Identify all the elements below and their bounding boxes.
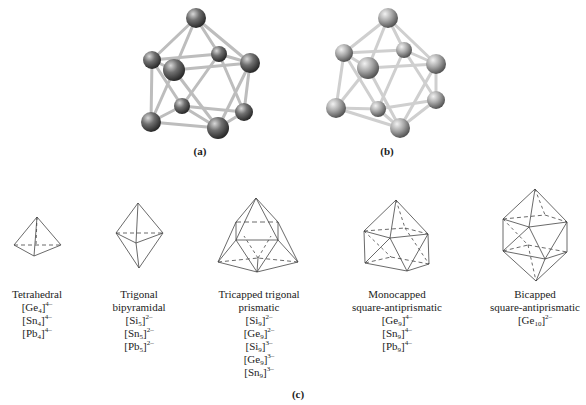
formula: [Ge10]2– xyxy=(490,314,580,327)
tetrahedron-wireframe xyxy=(14,217,61,256)
caption-monocapped-square-antiprismatic: Monocapped square-antiprismatic [Ge9]4– … xyxy=(352,288,442,353)
shape-name-line: bipyramidal xyxy=(112,301,165,314)
panel-label-a: (a) xyxy=(194,145,207,157)
shape-name-line: Tetrahedral xyxy=(12,288,62,301)
trigonal-bipyramid-wireframe xyxy=(116,203,163,268)
formula: [Ge9]2– xyxy=(218,327,299,340)
caption-bicapped-square-antiprismatic: Bicapped square-antiprismatic [Ge10]2– xyxy=(490,288,580,327)
formula: [Sn4]4– xyxy=(12,314,62,327)
formula: [Pb5]2– xyxy=(112,340,165,353)
formula: [Sn5]2– xyxy=(112,327,165,340)
panel-label-c: (c) xyxy=(292,388,304,400)
caption-tricapped-trigonal-prismatic: Tricapped trigonal prismatic [Si9]2– [Ge… xyxy=(218,288,299,379)
formula: [Pb9]4– xyxy=(352,340,442,353)
panel-label-b: (b) xyxy=(380,145,393,157)
caption-trigonal-bipyramidal: Trigonal bipyramidal [Si5]2– [Sn5]2– [Pb… xyxy=(112,288,165,353)
polyhedra-wireframes xyxy=(14,189,567,281)
formula: [Ge9]4– xyxy=(352,314,442,327)
caption-tetrahedral: Tetrahedral [Ge4]4– [Sn4]4– [Pb4]4– xyxy=(12,288,62,340)
tricapped-trigonal-prism-wireframe xyxy=(218,198,298,272)
cluster-b-atoms xyxy=(326,8,446,138)
formula: [Sn9]3– xyxy=(218,366,299,379)
bicapped-square-antiprism-wireframe xyxy=(503,189,567,281)
shape-name-line: prismatic xyxy=(218,301,299,314)
shape-name-line: Bicapped xyxy=(490,288,580,301)
formula: [Pb4]4– xyxy=(12,327,62,340)
formula: [Ge9]3– xyxy=(218,353,299,366)
shape-name-line: Trigonal xyxy=(112,288,165,301)
cluster-b-bonds xyxy=(336,18,436,128)
formula: [Si9]2– xyxy=(218,314,299,327)
formula: [Ge4]4– xyxy=(12,301,62,314)
shape-name-line: square-antiprismatic xyxy=(352,301,442,314)
shape-name-line: Monocapped xyxy=(352,288,442,301)
monocapped-square-antiprism-wireframe xyxy=(364,200,429,271)
formula: [Si5]2– xyxy=(112,314,165,327)
formula: [Sn9]4– xyxy=(352,327,442,340)
shape-name-line: square-antiprismatic xyxy=(490,301,580,314)
shape-name-line: Tricapped trigonal xyxy=(218,288,299,301)
formula: [Si9]3– xyxy=(218,340,299,353)
